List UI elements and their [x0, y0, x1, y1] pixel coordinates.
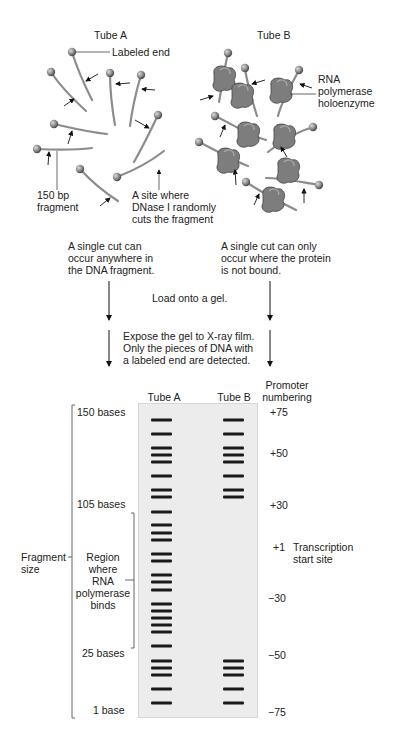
lane-a-band: [151, 645, 172, 648]
binding-line1: Region: [74, 551, 132, 563]
promoter-minus50: −50: [268, 649, 286, 661]
lane-a-band: [151, 574, 172, 577]
promoter-minus30: −30: [268, 592, 286, 604]
fragment-size-line1: Fragment: [21, 551, 66, 563]
transcription-start-label: Transcription start site: [293, 541, 353, 565]
lane-a-band: [151, 702, 172, 705]
size-label-1: 1 base: [93, 704, 125, 716]
lane-a-band: [151, 419, 172, 422]
lane-a-band: [151, 589, 172, 592]
gel-bands: [0, 0, 395, 739]
lane-a-band: [151, 447, 172, 450]
lane-b-band: [223, 660, 244, 663]
size-label-25: 25 bases: [82, 647, 125, 659]
lane-a-band: [151, 433, 172, 436]
lane-a-band: [151, 581, 172, 584]
lane-a-band: [151, 667, 172, 670]
lane-b-band: [223, 702, 244, 705]
fragment-size-label: Fragment size: [21, 551, 66, 575]
transcription-line2: start site: [293, 553, 353, 565]
lane-a-band: [151, 475, 172, 478]
lane-a-band: [151, 610, 172, 613]
lane-a-band: [151, 603, 172, 606]
lane-b-band: [223, 447, 244, 450]
lane-a-band: [151, 674, 172, 677]
lane-b-band: [223, 496, 244, 499]
lane-b-band: [223, 489, 244, 492]
transcription-line1: Transcription: [293, 541, 353, 553]
lane-b-band: [223, 419, 244, 422]
lane-b-band: [223, 688, 244, 691]
lane-b-band: [223, 475, 244, 478]
binding-line4: polymerase: [74, 587, 132, 599]
binding-line5: binds: [74, 599, 132, 611]
fragment-size-line2: size: [21, 563, 66, 575]
promoter-plus50: +50: [270, 447, 288, 459]
lane-a-band: [151, 461, 172, 464]
lane-b-band: [223, 454, 244, 457]
lane-a-band: [151, 532, 172, 535]
promoter-plus30: +30: [270, 499, 288, 511]
lane-a-band: [151, 496, 172, 499]
promoter-plus75: +75: [270, 406, 288, 418]
size-label-150: 150 bases: [77, 406, 125, 418]
binding-region-label: Region where RNA polymerase binds: [74, 551, 132, 611]
lane-b-band: [223, 674, 244, 677]
lane-a-band: [151, 511, 172, 514]
lane-a-band: [151, 624, 172, 627]
lane-a-band: [151, 660, 172, 663]
lane-a-band: [151, 688, 172, 691]
lane-a-band: [151, 539, 172, 542]
binding-line2: where: [74, 563, 132, 575]
lane-a-band: [151, 454, 172, 457]
binding-line3: RNA: [74, 575, 132, 587]
lane-b-band: [223, 461, 244, 464]
lane-b-band: [223, 667, 244, 670]
size-label-105: 105 bases: [77, 498, 125, 510]
promoter-minus75: −75: [268, 706, 286, 718]
lane-a-band: [151, 489, 172, 492]
lane-a-band: [151, 553, 172, 556]
lane-a-band: [151, 524, 172, 527]
promoter-plus1: +1: [273, 541, 285, 553]
lane-a-band: [151, 631, 172, 634]
lane-a-band: [151, 560, 172, 563]
lane-b-band: [223, 433, 244, 436]
lane-a-band: [151, 617, 172, 620]
